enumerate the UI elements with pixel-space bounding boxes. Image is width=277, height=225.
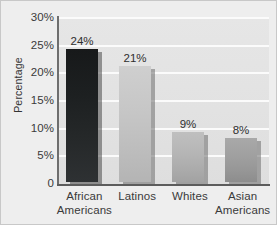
y-tick-label-5pct: 5% bbox=[4, 150, 54, 161]
bar-asian-americans bbox=[225, 138, 257, 182]
x-axis-line bbox=[57, 184, 270, 186]
bar-latinos bbox=[119, 66, 151, 182]
bar-body bbox=[172, 132, 204, 182]
x-label-asian-americans: AsianAmericans bbox=[203, 189, 277, 217]
y-axis-line bbox=[57, 16, 59, 186]
y-tick-label-30pct: 30% bbox=[4, 12, 54, 23]
bar-chart-figure: 24%21%9%8% 05%10%15%20%25%30% Percentage… bbox=[0, 0, 277, 225]
bar-african-americans bbox=[66, 49, 98, 182]
bar-body bbox=[225, 138, 257, 182]
x-label-line: Americans bbox=[44, 203, 124, 217]
bar-body bbox=[119, 66, 151, 182]
x-label-line: Americans bbox=[203, 203, 277, 217]
gridline-30pct bbox=[58, 17, 269, 19]
bar-value-label-african-americans: 24% bbox=[52, 35, 112, 47]
y-axis-title: Percentage bbox=[12, 35, 24, 135]
bar-body bbox=[66, 49, 98, 182]
bar-whites bbox=[172, 132, 204, 182]
bar-value-label-asian-americans: 8% bbox=[211, 124, 271, 136]
bar-value-label-latinos: 21% bbox=[105, 52, 165, 64]
bar-value-label-whites: 9% bbox=[158, 118, 218, 130]
y-tick-label-0: 0 bbox=[4, 178, 54, 189]
x-label-line: Asian bbox=[203, 189, 277, 203]
